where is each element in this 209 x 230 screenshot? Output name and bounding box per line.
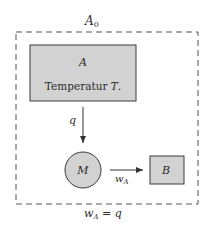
body-b-label: B xyxy=(161,164,170,177)
reservoir-a-box xyxy=(30,45,136,101)
heat-flow-label: q xyxy=(69,114,76,127)
reservoir-a-temperature: Temperatur T. xyxy=(45,80,121,92)
machine-label: M xyxy=(76,164,89,177)
balance-equation: wA = q xyxy=(84,207,122,221)
work-label: wA xyxy=(115,173,129,186)
diagram-canvas: A0 A Temperatur T. q M wA B wA = q xyxy=(0,0,209,230)
boundary-label: A0 xyxy=(84,14,99,29)
reservoir-a-label: A xyxy=(78,56,87,69)
